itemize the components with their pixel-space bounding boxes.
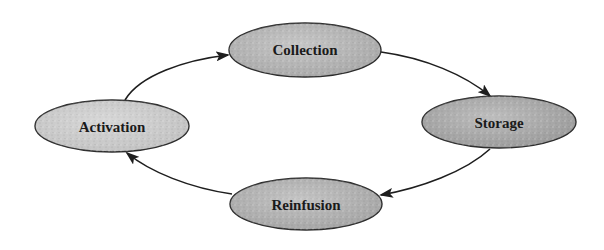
activation-label: Activation <box>79 119 146 135</box>
node-storage: Storage <box>422 96 576 148</box>
node-reinfusion: Reinfusion <box>230 178 382 230</box>
node-collection: Collection <box>229 23 381 77</box>
cycle-diagram: Collection Storage Reinfusion Activation <box>0 0 604 250</box>
reinfusion-label: Reinfusion <box>271 197 341 213</box>
edge-storage-to-reinfusion <box>381 149 490 195</box>
collection-label: Collection <box>273 42 339 58</box>
edge-reinfusion-to-activation <box>127 153 232 194</box>
node-activation: Activation <box>35 100 189 152</box>
storage-label: Storage <box>474 115 523 131</box>
edge-activation-to-collection <box>125 55 228 100</box>
edge-collection-to-storage <box>381 52 490 96</box>
